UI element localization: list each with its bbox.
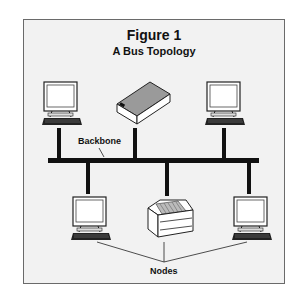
server-icon xyxy=(117,82,170,124)
backbone-label: Backbone xyxy=(78,136,121,146)
computer-icon xyxy=(205,82,245,125)
printer-icon xyxy=(148,200,193,237)
computer-icon xyxy=(71,197,111,240)
bus-topology-diagram xyxy=(0,0,301,301)
backbone-bus xyxy=(48,158,259,163)
nodes-label: Nodes xyxy=(150,266,178,276)
computer-icon xyxy=(232,197,272,240)
computer-icon xyxy=(42,82,82,125)
